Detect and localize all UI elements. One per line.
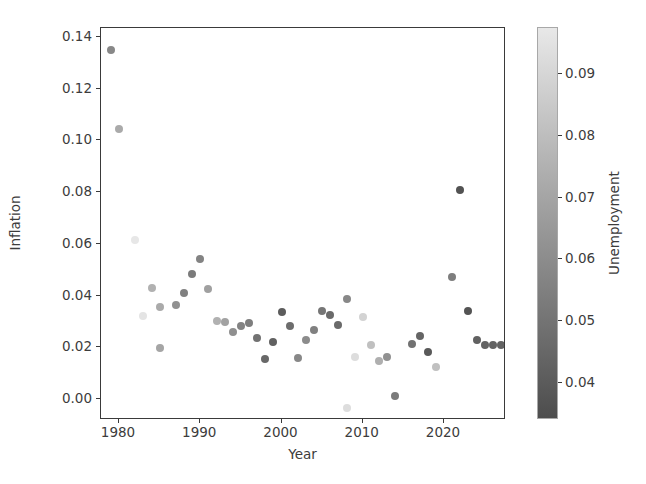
scatter-point — [408, 340, 416, 348]
scatter-point — [448, 273, 456, 281]
scatter-point — [253, 334, 261, 342]
scatter-point — [456, 186, 464, 194]
y-tick-label: 0.14 — [62, 28, 92, 44]
scatter-point — [334, 321, 342, 329]
scatter-point — [351, 353, 359, 361]
scatter-point — [213, 317, 221, 325]
y-tick-label: 0.06 — [62, 235, 92, 251]
y-tick-label: 0.12 — [62, 80, 92, 96]
y-tick-mark — [96, 88, 100, 89]
scatter-point — [139, 312, 147, 320]
scatter-point — [326, 311, 334, 319]
scatter-point — [416, 332, 424, 340]
scatter-point — [269, 338, 277, 346]
colorbar-tick-label: 0.06 — [565, 250, 595, 266]
scatter-point — [172, 301, 180, 309]
colorbar-tick-label: 0.04 — [565, 374, 595, 390]
x-tick-mark — [281, 419, 282, 423]
scatter-point — [318, 307, 326, 315]
colorbar-tick-label: 0.08 — [565, 127, 595, 143]
colorbar-tick-mark — [558, 197, 562, 198]
scatter-point — [188, 270, 196, 278]
colorbar-gradient — [537, 27, 558, 419]
x-tick-label: 1990 — [182, 424, 216, 440]
scatter-point — [359, 313, 367, 321]
colorbar — [537, 27, 558, 419]
y-tick-mark — [96, 243, 100, 244]
colorbar-tick-mark — [558, 135, 562, 136]
scatter-point — [204, 285, 212, 293]
x-tick-mark — [118, 419, 119, 423]
scatter-point — [367, 341, 375, 349]
scatter-point — [294, 354, 302, 362]
scatter-point — [489, 341, 497, 349]
x-axis-label: Year — [100, 446, 505, 462]
y-tick-label: 0.10 — [62, 131, 92, 147]
scatter-point — [464, 307, 472, 315]
scatter-point — [278, 308, 286, 316]
scatter-point — [286, 322, 294, 330]
scatter-point — [497, 341, 504, 349]
plot-area — [100, 27, 505, 419]
scatter-point — [237, 322, 245, 330]
scatter-point — [180, 289, 188, 297]
scatter-point — [481, 341, 489, 349]
colorbar-tick-mark — [558, 382, 562, 383]
x-tick-label: 1980 — [101, 424, 135, 440]
scatter-point — [107, 46, 115, 54]
scatter-point — [156, 303, 164, 311]
y-tick-label: 0.00 — [62, 390, 92, 406]
scatter-point — [383, 353, 391, 361]
y-tick-label: 0.02 — [62, 338, 92, 354]
colorbar-tick-label: 0.05 — [565, 312, 595, 328]
scatter-point — [196, 255, 204, 263]
scatter-point — [302, 336, 310, 344]
colorbar-tick-mark — [558, 258, 562, 259]
scatter-point — [156, 344, 164, 352]
y-tick-mark — [96, 346, 100, 347]
scatter-point — [261, 355, 269, 363]
colorbar-tick-label: 0.07 — [565, 189, 595, 205]
colorbar-label: Unemployment — [606, 171, 622, 275]
scatter-point — [310, 326, 318, 334]
y-axis-label: Inflation — [6, 195, 22, 250]
scatter-point — [375, 357, 383, 365]
scatter-point — [343, 404, 351, 412]
colorbar-tick-mark — [558, 320, 562, 321]
scatter-point — [148, 284, 156, 292]
scatter-points-layer — [101, 28, 504, 418]
y-tick-mark — [96, 36, 100, 37]
y-tick-mark — [96, 191, 100, 192]
scatter-point — [131, 236, 139, 244]
x-tick-label: 2000 — [263, 424, 297, 440]
scatter-point — [473, 336, 481, 344]
scatter-point — [245, 319, 253, 327]
y-tick-mark — [96, 139, 100, 140]
colorbar-tick-mark — [558, 73, 562, 74]
scatter-point — [343, 295, 351, 303]
x-tick-label: 2020 — [426, 424, 460, 440]
x-tick-label: 2010 — [345, 424, 379, 440]
y-tick-mark — [96, 295, 100, 296]
y-tick-mark — [96, 398, 100, 399]
y-tick-label: 0.04 — [62, 287, 92, 303]
y-tick-label: 0.08 — [62, 183, 92, 199]
x-tick-mark — [362, 419, 363, 423]
scatter-point — [115, 125, 123, 133]
x-tick-mark — [199, 419, 200, 423]
matplotlib-figure: 0.000.020.040.060.080.100.120.14 Inflati… — [0, 0, 646, 484]
x-tick-mark — [443, 419, 444, 423]
scatter-point — [229, 328, 237, 336]
scatter-point — [424, 348, 432, 356]
colorbar-tick-label: 0.09 — [565, 65, 595, 81]
scatter-point — [432, 363, 440, 371]
scatter-point — [221, 318, 229, 326]
scatter-point — [391, 392, 399, 400]
